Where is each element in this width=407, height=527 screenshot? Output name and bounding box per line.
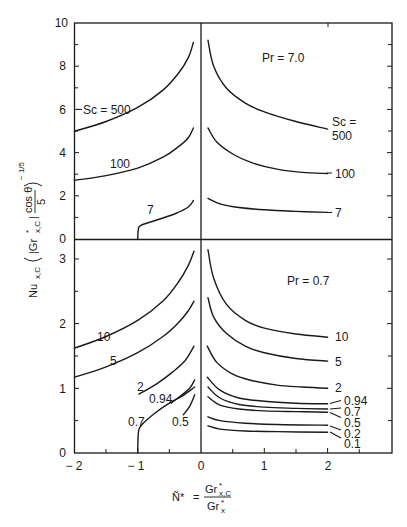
x-tick-label: − 1: [127, 459, 144, 473]
upper-right-ticks: [387, 45, 392, 218]
curve-label-sc10-left: 10: [97, 330, 111, 344]
curve-lower-left-0_5: [183, 395, 194, 415]
y-tick-label: 10: [55, 16, 69, 30]
bottom-ticks: [106, 448, 359, 453]
curve-lower-right-0_2: [208, 417, 328, 425]
y-tick-label: 0: [59, 232, 66, 246]
curve-label-sc7-right: 7: [335, 206, 342, 220]
x-label-den-sub: x: [221, 506, 225, 515]
y-label-gr-sub: x,C: [33, 221, 42, 233]
x-label-denominator: Gr: [207, 500, 220, 512]
x-tick-label: 1: [261, 459, 268, 473]
curve-upper-left-100: [74, 128, 193, 180]
y-label-close-paren: [24, 183, 42, 186]
y-tick-label: 4: [59, 146, 66, 160]
y-tick-label: 6: [59, 103, 66, 117]
y-label-exponent: − 1/5: [17, 161, 26, 180]
curve-lower-left-5: [74, 301, 194, 377]
x-tick-label: − 2: [65, 459, 82, 473]
curve-lower-right-0_1: [208, 426, 328, 433]
x-label-n: Ñ*: [172, 491, 185, 503]
x-label-numerator: Gr: [205, 483, 218, 495]
curve-label-sc500-left: Sc = 500: [83, 103, 131, 117]
curve-label-sc01-right: 0.1: [344, 437, 361, 451]
x-tick-label: 2: [325, 459, 332, 473]
curve-label-sc07-left: 0.7: [128, 415, 145, 429]
upper-curve-labels: Sc = 500 100 7 Sc = 500 100 7: [83, 103, 356, 220]
y-tick-label: 2: [59, 189, 66, 203]
upper-panel-title: Pr = 7.0: [262, 51, 305, 65]
x-axis-label: Ñ* = Gr * x,C Gr * x: [172, 481, 231, 515]
curve-upper-right-7: [208, 198, 328, 212]
y-label-cos: cos θ: [22, 187, 34, 213]
y-label-gr-sup: *: [24, 230, 33, 233]
y-tick-label: 0: [59, 446, 66, 460]
curve-upper-left-500: [74, 43, 193, 132]
curve-lower-right-0_5: [208, 397, 328, 413]
curve-lower-right-0_7: [208, 387, 328, 409]
lower-right-ticks: [387, 259, 392, 421]
y-label-five: 5: [35, 199, 47, 205]
curve-lower-right-2: [207, 346, 327, 388]
y-tick-label: 8: [59, 59, 66, 73]
curve-lower-right-10: [208, 250, 328, 337]
curve-label-sc5-left: 5: [110, 354, 117, 368]
y-label-nu: Nu: [27, 284, 39, 298]
curve-label-sc2-left: 2: [137, 380, 144, 394]
curve-label-sc2-right: 2: [335, 381, 342, 395]
y-label-gr: |Gr: [27, 239, 39, 254]
x-tick-label: 0: [198, 459, 205, 473]
x-tick-labels: − 2 − 1 0 1 2: [65, 459, 331, 473]
curve-label-sc094-left: 0.94: [149, 392, 173, 406]
curve-label-sc500-right: 500: [332, 129, 352, 143]
curve-label-sc05-left: 0.5: [172, 415, 189, 429]
y-axis-label: Nu x,C |Gr * x,C | cos θ 5 − 1/5: [17, 161, 47, 298]
y-label-gr-close: |: [27, 216, 39, 219]
y-tick-label: 2: [59, 317, 66, 331]
y-label-open-paren: [24, 258, 42, 261]
curve-lower-left-2: [139, 346, 194, 394]
curve-label-sc100-right: 100: [335, 167, 355, 181]
upper-y-tick-labels: 0 2 4 6 8 10: [55, 16, 69, 246]
lower-left-ticks: [75, 259, 80, 421]
plot-frame: [75, 23, 393, 453]
curve-label-sc7-left: 7: [147, 203, 154, 217]
curve-upper-right-100: [208, 128, 328, 174]
x-label-equals: =: [193, 491, 199, 503]
lower-panel-title: Pr = 0.7: [287, 274, 330, 288]
curve-label-sc-right-head: Sc =: [332, 115, 356, 129]
nusselt-number-chart: 0 2 4 6 8 10 0 1 2 3 − 2 − 1 0 1 2 Pr = …: [0, 0, 407, 527]
y-tick-label: 1: [59, 382, 66, 396]
curve-label-sc100-left: 100: [110, 157, 130, 171]
y-tick-label: 3: [59, 252, 66, 266]
lower-y-tick-labels: 0 1 2 3: [59, 252, 66, 460]
lower-label-leaders: [330, 401, 341, 439]
curve-label-sc5-right: 5: [335, 355, 342, 369]
curve-label-sc10-right: 10: [335, 330, 349, 344]
curve-lower-left-10: [74, 251, 194, 348]
y-label-nu-sub: x,C: [33, 267, 42, 279]
